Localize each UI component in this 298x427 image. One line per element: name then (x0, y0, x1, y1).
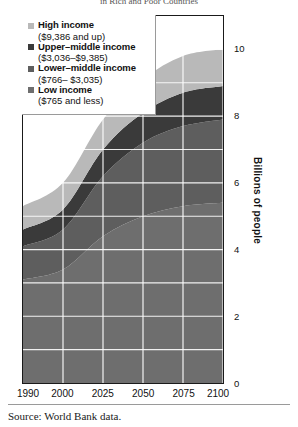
legend-range-lower-middle-income: ($766– $3,035) (38, 74, 151, 85)
x-tick-label-2025: 2025 (83, 388, 123, 399)
source-note: Source: World Bank data. (8, 410, 121, 422)
legend-item: Upper–middle income (28, 42, 151, 53)
legend-label-high-income: High income (38, 20, 94, 31)
legend-swatch-low-income (28, 87, 34, 93)
legend-range-high-income: ($9,386 and up) (38, 31, 151, 42)
y-tick-label-4: 4 (234, 244, 239, 255)
figure-root: in Rich and Poor Countries High income (… (0, 0, 298, 427)
x-tick-label-2100: 2100 (198, 388, 238, 399)
legend-swatch-lower-middle-income (28, 66, 34, 72)
legend-item: High income (28, 20, 151, 31)
y-tick-label-6: 6 (234, 177, 239, 188)
x-tick-label-2050: 2050 (123, 388, 163, 399)
legend-label-upper-middle-income: Upper–middle income (38, 42, 135, 53)
y-tick-label-2: 2 (234, 311, 239, 322)
x-tick-label-2000: 2000 (42, 388, 82, 399)
footer-divider (8, 404, 290, 405)
legend-swatch-high-income (28, 23, 34, 29)
legend-range-low-income: ($765 and less) (38, 95, 151, 106)
chart-title: in Rich and Poor Countries (0, 0, 298, 4)
y-axis-title: Billions of people (252, 157, 263, 244)
y-tick-label-10: 10 (234, 43, 245, 54)
chart-legend: High income ($9,386 and up) Upper–middle… (22, 15, 156, 115)
figure-panel: High income ($9,386 and up) Upper–middle… (0, 7, 298, 390)
legend-item: Low income (28, 85, 151, 96)
legend-label-low-income: Low income (38, 85, 92, 96)
legend-label-lower-middle-income: Lower–middle income (38, 63, 136, 74)
legend-swatch-upper-middle-income (28, 44, 34, 50)
y-tick-label-8: 8 (234, 110, 239, 121)
legend-item: Lower–middle income (28, 63, 151, 74)
